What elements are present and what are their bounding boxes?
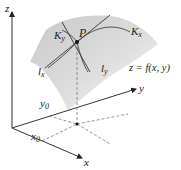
point-p-marker	[75, 40, 79, 44]
x-direction-dashed	[77, 124, 110, 144]
partial-derivatives-diagram: z y x P Ky Kx lx ly z = f(x, y) y0 x0	[0, 0, 181, 170]
point-p-label: P	[79, 27, 86, 39]
y0-label: y0	[40, 98, 49, 111]
lx-sub: x	[41, 70, 45, 79]
x-axis-label: x	[84, 157, 89, 168]
x0-label: x0	[31, 131, 40, 144]
ly-label: ly	[101, 63, 108, 76]
base-point	[76, 123, 79, 126]
y0-projection	[49, 116, 77, 124]
surface-equation: z = f(x, y)	[129, 63, 170, 74]
kx-sub: x	[138, 30, 142, 39]
y-axis-label: y	[139, 83, 144, 94]
x0-projection	[42, 124, 77, 141]
ky-label: Ky	[54, 30, 65, 43]
x0-sub: 0	[36, 135, 40, 144]
ky-sub: y	[61, 34, 65, 43]
z-axis-label: z	[5, 3, 9, 14]
y0-sub: 0	[45, 102, 49, 111]
x-axis	[12, 128, 82, 158]
diagram-graphics	[0, 0, 181, 170]
lx-label: lx	[38, 66, 45, 79]
y-direction-dashed	[77, 114, 128, 124]
ly-sub: y	[104, 67, 108, 76]
kx-label: Kx	[131, 26, 142, 39]
